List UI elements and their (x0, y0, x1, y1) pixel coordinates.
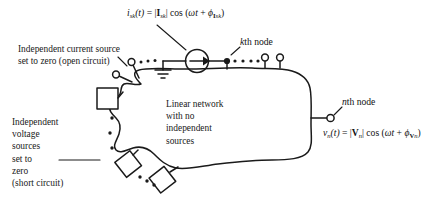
eq-voltage-time: t (392, 127, 395, 138)
kth-node-text: th node (244, 36, 273, 47)
voltage-source-note: Independent voltage sources set to zero … (12, 116, 63, 189)
eq-voltage-lhs-arg: (t) (331, 127, 340, 138)
shorted-source-square-2-lead (133, 150, 138, 155)
kth-node-dot (224, 58, 230, 64)
ellipsis-top-left (140, 59, 157, 64)
eq-voltage-cos: cos (366, 127, 379, 138)
eq-current-paren-close: ) (221, 7, 224, 18)
terminal-open-a-lead (133, 65, 139, 78)
ellipsis-top-right (233, 59, 259, 62)
current-source-equation: isk(t) = |Isk| cos (ωt + ϕIsk) (127, 7, 224, 19)
terminal-open-b-lead (119, 76, 132, 82)
network-block-label: Linear network with no independent sourc… (166, 98, 224, 147)
eq-voltage-mag-symbol: V (352, 127, 359, 138)
ellipsis-left-vertical (108, 116, 113, 149)
eq-current-lhs-arg: (t) (135, 7, 144, 18)
current-source-arrowhead (203, 57, 210, 66)
circuit-figure: isk(t) = |Isk| cos (ωt + ϕIsk) Independe… (0, 0, 444, 203)
eq-voltage-mag-close: | (362, 127, 364, 138)
nth-node-text: th node (347, 96, 376, 107)
nth-node-label: nth node (342, 96, 375, 107)
shorted-source-square-2 (115, 151, 142, 178)
kth-node-label: kth node (240, 36, 273, 47)
eq-voltage-plus: + (397, 127, 402, 138)
terminal-open-b-circle (113, 71, 120, 78)
terminal-top-r1-circle (262, 54, 269, 61)
nth-node-circle (327, 114, 334, 121)
leader-nth-node (334, 107, 342, 115)
eq-current-equals: = (147, 7, 152, 18)
eq-voltage-paren-close: ) (417, 127, 420, 138)
eq-voltage-omega: ω (385, 127, 392, 138)
leader-kth-node (231, 47, 240, 55)
eq-voltage-equals: = (342, 127, 347, 138)
terminal-top-r2-circle (277, 54, 284, 61)
terminal-open-a-circle (128, 59, 135, 66)
eq-current-time: t (195, 7, 198, 18)
eq-current-cos: cos (170, 7, 183, 18)
eq-current-plus: + (200, 7, 205, 18)
node-voltage-equation: vn(t) = |Vn| cos (ωt + ϕVn) (323, 127, 421, 139)
current-source-note: Independent current source set to zero (… (18, 43, 120, 67)
leader-current-equation (157, 25, 186, 50)
shorted-source-square-1 (97, 88, 118, 109)
eq-current-mag-close: | (166, 7, 168, 18)
